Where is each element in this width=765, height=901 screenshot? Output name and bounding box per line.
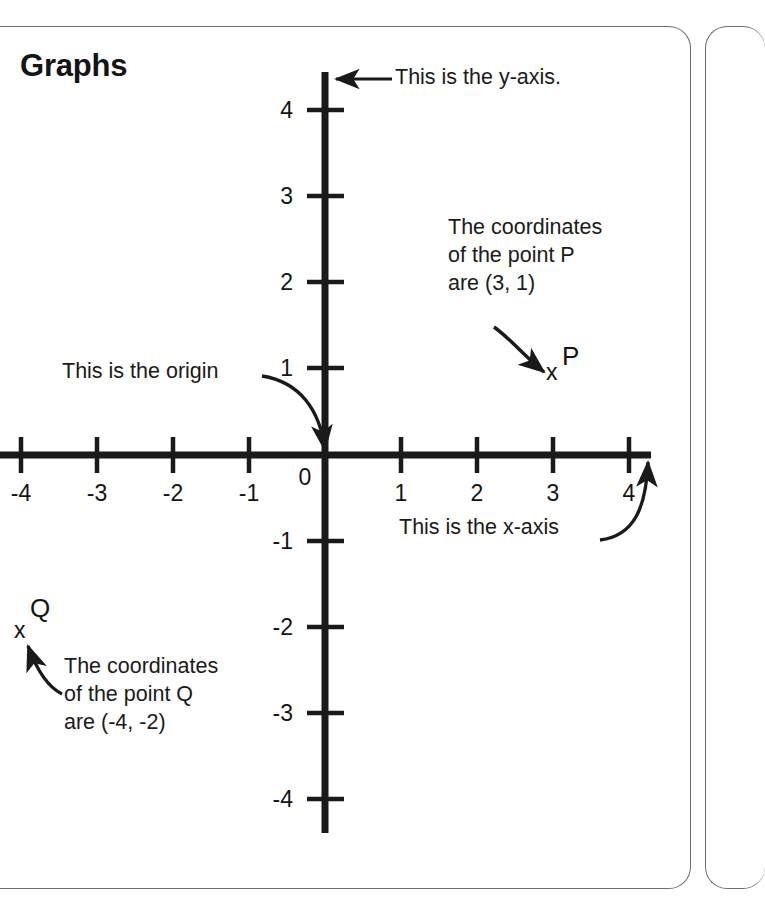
point-q-arrow [28, 646, 62, 694]
point-q-marker: x [14, 619, 26, 642]
y-tick-label--1: -1 [252, 530, 293, 553]
annotation-point-q: The coordinates of the point Q are (-4, … [64, 652, 218, 736]
point-p-arrow [494, 327, 544, 372]
y-tick-label-2: 2 [258, 271, 293, 294]
y-tick-label-1: 1 [258, 357, 293, 380]
origin-arrow [262, 376, 325, 450]
annotation-x-axis: This is the x-axis [399, 513, 559, 541]
x-tick-label--3: -3 [87, 482, 107, 505]
annotation-point-p: The coordinates of the point P are (3, 1… [448, 213, 602, 297]
point-q-label: Q [30, 595, 50, 621]
origin-label: 0 [299, 466, 312, 489]
y-tick-label--4: -4 [252, 788, 293, 811]
point-p-marker: x [546, 361, 558, 384]
point-p-label: P [562, 343, 579, 369]
y-tick-label-4: 4 [258, 99, 293, 122]
y-tick-label--3: -3 [252, 702, 293, 725]
y-tick-label-3: 3 [258, 185, 293, 208]
x-tick-label--1: -1 [239, 482, 259, 505]
annotation-y-axis: This is the y-axis. [395, 63, 561, 91]
annotation-origin: This is the origin [62, 357, 219, 385]
x-tick-label--2: -2 [163, 482, 183, 505]
x-tick-label-1: 1 [395, 482, 408, 505]
y-tick-label--2: -2 [252, 616, 293, 639]
x-tick-label-3: 3 [547, 482, 560, 505]
x-tick-label-2: 2 [471, 482, 484, 505]
x-tick-label--4: -4 [11, 482, 31, 505]
x-tick-label-4: 4 [623, 482, 636, 505]
